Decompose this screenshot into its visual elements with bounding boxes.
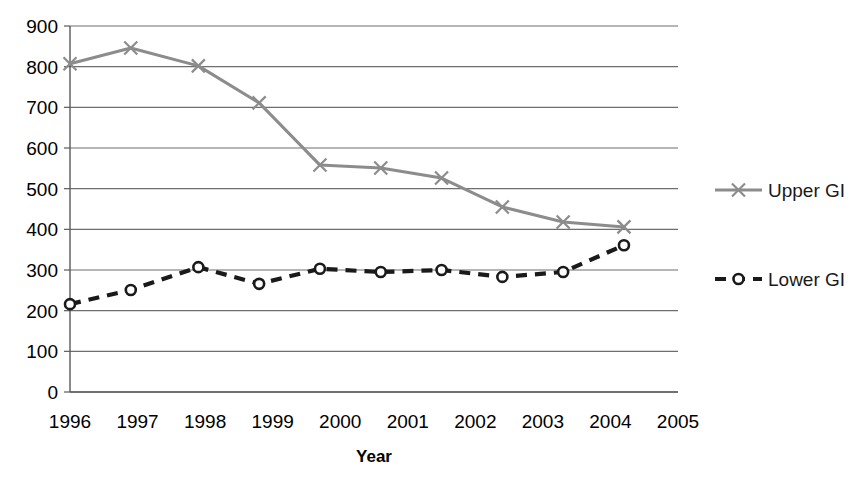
x-tick-label: 2000 (319, 411, 361, 432)
legend-label: Lower GI (768, 269, 845, 290)
y-axis-tick-labels: 0100200300400500600700800900 (26, 16, 70, 403)
y-tick-label: 0 (47, 382, 58, 403)
x-tick-label: 1996 (49, 411, 91, 432)
y-tick-label: 700 (26, 97, 58, 118)
data-point-marker (497, 272, 507, 282)
y-tick-label: 200 (26, 301, 58, 322)
data-point-marker (376, 267, 386, 277)
legend-item-lower-gi[interactable]: Lower GI (715, 269, 845, 290)
chart-container: 0100200300400500600700800900 19961997199… (0, 0, 854, 479)
x-axis-tick-labels: 1996199719981999200020012002200320042005 (49, 411, 699, 432)
x-tick-label: 1999 (252, 411, 294, 432)
series-upper-gi (64, 41, 631, 233)
y-tick-label: 600 (26, 138, 58, 159)
legend-label: Upper GI (768, 180, 845, 201)
data-point-marker (193, 262, 203, 272)
y-tick-label: 800 (26, 57, 58, 78)
x-tick-label: 1998 (184, 411, 226, 432)
series-lower-gi (65, 240, 629, 309)
legend-item-upper-gi[interactable]: Upper GI (715, 180, 845, 201)
data-point-marker (254, 279, 264, 289)
x-tick-label: 2005 (657, 411, 699, 432)
y-tick-label: 500 (26, 179, 58, 200)
data-point-marker (619, 240, 629, 250)
x-tick-label: 2001 (387, 411, 429, 432)
data-point-marker (734, 274, 744, 284)
x-tick-label: 1997 (116, 411, 158, 432)
y-tick-label: 400 (26, 219, 58, 240)
plot-frame (70, 26, 678, 392)
data-series-layer (64, 41, 631, 309)
data-point-marker (558, 267, 568, 277)
series-line (70, 245, 624, 304)
y-tick-label: 900 (26, 16, 58, 37)
x-axis-title: Year (356, 447, 392, 466)
y-tick-label: 300 (26, 260, 58, 281)
chart-legend: Upper GILower GI (715, 180, 845, 290)
x-tick-label: 2003 (522, 411, 564, 432)
data-point-marker (437, 265, 447, 275)
gridlines-group (70, 26, 678, 392)
y-tick-label: 100 (26, 341, 58, 362)
x-tick-label: 2002 (454, 411, 496, 432)
line-chart: 0100200300400500600700800900 19961997199… (0, 0, 854, 479)
x-tick-label: 2004 (589, 411, 632, 432)
data-point-marker (65, 299, 75, 309)
data-point-marker (126, 285, 136, 295)
data-point-marker (315, 264, 325, 274)
series-line (70, 48, 624, 227)
